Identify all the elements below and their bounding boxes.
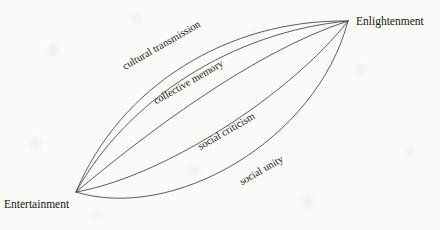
arc-label-social-criticism: social criticism bbox=[196, 110, 257, 151]
node-label-enlightenment: Enlightenment bbox=[356, 15, 425, 28]
node-label-entertainment: Entertainment bbox=[4, 198, 70, 210]
arc-label-cultural-transmission: cultural transmission bbox=[120, 18, 202, 72]
diagram-canvas: Entertainment Enlightenment cultural tra… bbox=[0, 0, 440, 230]
arc-cultural-transmission bbox=[76, 21, 348, 192]
arc-collective-memory bbox=[76, 21, 348, 192]
arc-social-unity bbox=[76, 21, 348, 198]
arc-outer-top bbox=[76, 21, 348, 192]
arc-social-criticism bbox=[76, 21, 348, 192]
arc-label-collective-memory: collective memory bbox=[152, 57, 226, 106]
lens-arc-diagram: Entertainment Enlightenment cultural tra… bbox=[0, 0, 440, 230]
